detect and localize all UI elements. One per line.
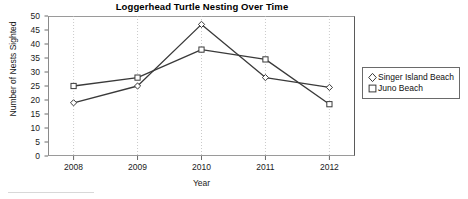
plot-canvas [48,16,355,156]
y-axis-tick-label: 0 [18,152,40,161]
x-axis-tick-label: 2012 [307,163,351,172]
y-axis-tick-label: 45 [18,26,40,35]
x-axis-tick-label: 2008 [52,163,96,172]
x-axis-tick-label: 2009 [116,163,160,172]
legend-label: Juno Beach [378,83,423,94]
data-point-marker [327,102,332,107]
chart-title: Loggerhead Turtle Nesting Over Time [48,1,356,12]
y-axis-tick-label: 25 [18,82,40,91]
data-point-marker [199,47,204,52]
y-axis-tick-label: 50 [18,12,40,21]
x-axis-title: Year [48,178,355,188]
data-point-marker [135,75,140,80]
y-axis-tick-label: 5 [18,138,40,147]
x-axis-tick-label: 2010 [180,163,224,172]
page-divider [8,192,94,193]
y-axis-tick-label: 30 [18,68,40,77]
y-axis-tick-label: 15 [18,110,40,119]
y-axis-tick-label: 35 [18,54,40,63]
legend-label: Singer Island Beach [378,72,454,83]
x-axis-tick-label: 2011 [243,163,287,172]
data-point-marker [71,83,76,88]
diamond-marker-icon [367,72,378,83]
y-axis-tick-label: 40 [18,40,40,49]
chart-legend: Singer Island Beach Juno Beach [362,67,460,99]
data-point-marker [326,84,332,90]
legend-item-singer-island-beach: Singer Island Beach [367,72,454,83]
square-marker-icon [367,83,378,94]
data-point-marker [263,57,268,62]
line-chart-figure: Loggerhead Turtle Nesting Over Time Numb… [0,0,468,199]
data-point-marker [70,100,76,106]
y-axis-tick-label: 20 [18,96,40,105]
y-axis-title: Number of Nests Sighted [8,4,18,134]
legend-item-juno-beach: Juno Beach [367,83,454,94]
y-axis-tick-label: 10 [18,124,40,133]
